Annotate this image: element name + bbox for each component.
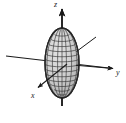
z-axis-label: z	[54, 1, 57, 9]
y-axis-label: y	[116, 69, 120, 77]
surface-pointer-line	[77, 37, 97, 52]
figure-canvas	[0, 0, 126, 123]
x-axis-label: x	[31, 92, 35, 100]
y-axis-front-segment	[76, 65, 113, 68]
figure-container: z y x	[0, 0, 126, 123]
